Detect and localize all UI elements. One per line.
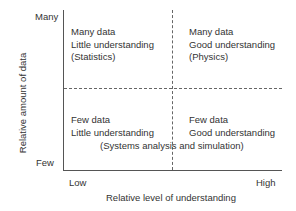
x-axis-low-label: Low bbox=[69, 177, 86, 189]
x-axis-high-label: High bbox=[256, 177, 276, 189]
quadrant-bottom-right: Few data Good understanding bbox=[189, 114, 275, 139]
y-axis-label: Relative amount of data bbox=[17, 53, 28, 153]
y-axis-low-label: Few bbox=[36, 157, 54, 169]
quadrant-line: (Physics) bbox=[189, 51, 275, 64]
quadrant-line: Good understanding bbox=[189, 39, 275, 52]
quadrant-line: Few data bbox=[189, 114, 275, 127]
quadrant-line: Good understanding bbox=[189, 127, 275, 140]
x-axis-line bbox=[63, 170, 282, 171]
y-axis-line bbox=[63, 10, 64, 171]
y-axis-high-label: Many bbox=[35, 11, 58, 23]
quadrant-bottom-span-label: (Systems analysis and simulation) bbox=[100, 140, 244, 153]
quadrant-line: Many data bbox=[71, 26, 154, 39]
x-axis-label: Relative level of understanding bbox=[106, 192, 236, 204]
quadrant-line: Few data bbox=[71, 114, 154, 127]
quadrant-line: Little understanding bbox=[71, 127, 154, 140]
quadrant-line: (Statistics) bbox=[71, 51, 154, 64]
quadrant-line: Many data bbox=[189, 26, 275, 39]
quadrant-top-right: Many data Good understanding (Physics) bbox=[189, 26, 275, 64]
quadrant-top-left: Many data Little understanding (Statisti… bbox=[71, 26, 154, 64]
quadrant-bottom-left: Few data Little understanding bbox=[71, 114, 154, 139]
quadrant-line: Little understanding bbox=[71, 39, 154, 52]
horizontal-divider bbox=[64, 88, 282, 89]
